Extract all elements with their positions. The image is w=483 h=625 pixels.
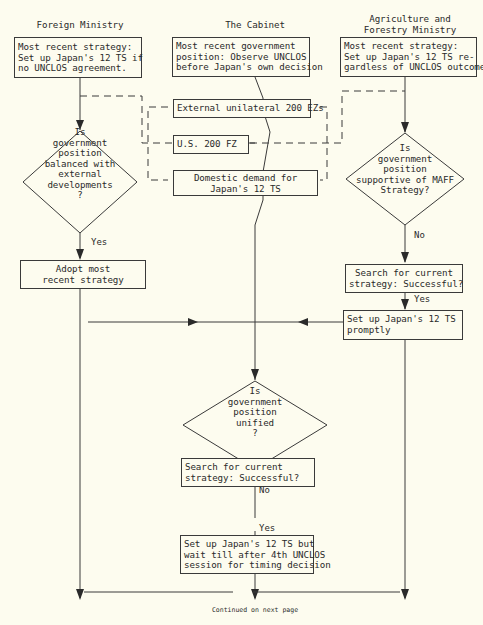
maff-search-box: Search for current strategy: Successful? — [345, 264, 463, 293]
column-header-cabinet: The Cabinet — [195, 20, 315, 31]
maff-action-box: Set up Japan's 12 TS promptly — [343, 310, 463, 340]
maff-no-label: No — [414, 230, 425, 240]
maff-decision-diamond: Is government position supportive of MAF… — [350, 143, 460, 196]
column-header-agriculture-ministry: Agriculture and Forestry Ministry — [350, 14, 470, 35]
cabinet-factor-domestic-demand: Domestic demand for Japan's 12 TS — [173, 170, 318, 196]
cabinet-yes-label: Yes — [259, 523, 275, 533]
cabinet-decision-diamond: Is government position unified ? — [205, 386, 305, 439]
column-header-foreign-ministry: Foreign Ministry — [20, 20, 140, 31]
fm-strategy-box: Most recent strategy: Set up Japan's 12 … — [14, 37, 142, 78]
cabinet-action-box: Set up Japan's 12 TS but wait till after… — [180, 535, 314, 574]
fm-decision-diamond: Is government position balanced with ext… — [30, 127, 130, 201]
maff-yes-label: Yes — [414, 294, 430, 304]
cabinet-search-box: Search for current strategy: Successful? — [181, 458, 315, 487]
cabinet-factor-us-fz: U.S. 200 FZ — [173, 135, 249, 154]
continued-footer: Continued on next page — [155, 606, 355, 614]
cabinet-factor-external-ezs: External unilateral 200 EZs — [173, 99, 311, 118]
fm-action-box: Adopt most recent strategy — [20, 260, 146, 289]
maff-strategy-box: Most recent strategy: Set up Japan's 12 … — [340, 37, 477, 77]
cabinet-position-box: Most recent government position: Observe… — [172, 37, 310, 77]
fm-yes-label: Yes — [91, 237, 107, 247]
